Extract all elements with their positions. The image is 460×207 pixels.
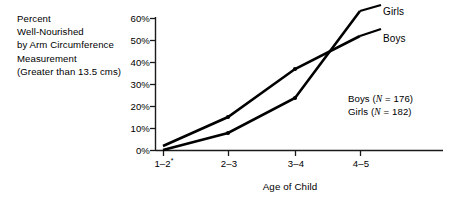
sample-size-boys-value: = 176) [382, 93, 413, 104]
sample-size-girls-value: = 182) [381, 106, 412, 117]
data-point-boys-3-4 [293, 67, 297, 71]
series-line-girls [163, 11, 360, 150]
x-axis-title: Age of Child [200, 181, 380, 192]
leader-line-boys [360, 29, 381, 36]
y-axis-ticks [150, 19, 156, 151]
data-point-girls-3-4 [293, 96, 297, 100]
data-point-boys-2-3 [226, 115, 230, 119]
sample-size-girls: Girls (N = 182) [348, 105, 413, 118]
x-tick-label-1-2: 1–2* [139, 159, 189, 169]
sample-size-annotations: Boys (N = 176) Girls (N = 182) [348, 92, 413, 118]
footnote-marker: * [171, 157, 174, 164]
x-tick-label-3-4: 3–4 [271, 159, 321, 169]
series-label-girls: Girls [383, 6, 404, 17]
x-axis-ticks [164, 151, 361, 157]
sample-size-boys: Boys (N = 176) [348, 92, 413, 105]
sample-size-girls-prefix: Girls ( [348, 106, 374, 117]
x-tick-label-4-5: 4–5 [336, 159, 386, 169]
x-tick-label-2-3: 2–3 [204, 159, 254, 169]
data-point-girls-2-3 [226, 131, 230, 135]
series-label-boys: Boys [383, 33, 406, 44]
chart-figure: Percent Well-Nourished by Arm Circumfere… [0, 0, 460, 207]
sample-size-boys-prefix: Boys ( [348, 93, 376, 104]
x-tick-label-1-2-text: 1–2 [154, 158, 170, 169]
leader-line-girls [360, 5, 381, 11]
